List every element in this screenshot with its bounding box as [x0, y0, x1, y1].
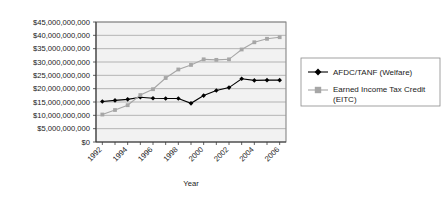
x-axis-title: Year [183, 179, 199, 188]
square-marker-icon [240, 48, 244, 52]
chart-legend: AFDC/TANF (Welfare) Earned Income Tax Cr… [301, 58, 440, 106]
x-tick-label: 2004 [237, 145, 255, 163]
y-tick-label: $35,000,000,000 [33, 44, 90, 53]
legend-label-eitc-line1: Earned Income Tax Credit [333, 85, 426, 94]
square-marker-icon [227, 57, 231, 61]
legend-label-eitc-line2: (EITC) [333, 95, 357, 104]
legend-box [301, 58, 440, 106]
square-marker-icon [126, 103, 130, 107]
square-marker-icon [100, 113, 104, 117]
y-axis-labels: $45,000,000,000$40,000,000,000$35,000,00… [33, 18, 90, 147]
square-marker-icon [202, 57, 206, 61]
y-tick-label: $0 [82, 138, 90, 147]
square-marker-icon [176, 68, 180, 72]
x-tick-label: 1998 [161, 145, 179, 163]
line-chart: $45,000,000,000$40,000,000,000$35,000,00… [0, 0, 448, 216]
square-marker-icon [138, 93, 142, 97]
legend-label-afdc-tanf: AFDC/TANF (Welfare) [333, 68, 413, 77]
plot-area [96, 22, 286, 142]
square-marker-icon [278, 35, 282, 39]
x-tick-label: 2000 [187, 145, 205, 163]
square-marker-icon [252, 40, 256, 44]
square-marker-icon [315, 87, 321, 93]
x-axis-labels: 19921994199619982000200220042006 [85, 145, 281, 163]
y-tick-label: $25,000,000,000 [33, 71, 90, 80]
square-marker-icon [214, 58, 218, 62]
y-tick-label: $15,000,000,000 [33, 98, 90, 107]
x-tick-label: 2002 [212, 145, 230, 163]
square-marker-icon [164, 76, 168, 80]
chart-container: $45,000,000,000$40,000,000,000$35,000,00… [0, 0, 448, 216]
x-tick-label: 1992 [85, 145, 103, 163]
y-tick-label: $20,000,000,000 [33, 84, 90, 93]
x-tick-label: 1994 [111, 145, 129, 163]
square-marker-icon [265, 37, 269, 41]
y-tick-label: $40,000,000,000 [33, 31, 90, 40]
square-marker-icon [189, 63, 193, 67]
x-tick-label: 1996 [136, 145, 154, 163]
square-marker-icon [113, 108, 117, 112]
y-tick-label: $5,000,000,000 [37, 124, 90, 133]
square-marker-icon [151, 87, 155, 91]
y-tick-label: $45,000,000,000 [33, 18, 90, 27]
y-tick-label: $30,000,000,000 [33, 58, 90, 67]
x-tick-label: 2006 [263, 145, 281, 163]
y-tick-label: $10,000,000,000 [33, 111, 90, 120]
